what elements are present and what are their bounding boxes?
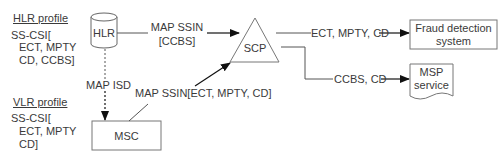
fraud-label-line-2: system [410, 35, 497, 48]
vlr-profile-line-2: ECT, MPTY [19, 125, 76, 138]
edge-hlr-msc-label: MAP ISD [86, 79, 131, 92]
hlr-profile-title: HLR profile [13, 12, 68, 25]
vlr-profile-title: VLR profile [13, 96, 67, 109]
scp-triangle-icon [230, 18, 279, 62]
edge-hlr-scp-label-2: [CCBS] [146, 35, 208, 48]
fraud-label-line-1: Fraud detection [410, 22, 497, 35]
scp-msp-line-a [281, 47, 333, 79]
msc-scp-arrow [195, 63, 230, 86]
msc-scp-line-a [129, 104, 148, 121]
hlr-profile-line-2: ECT, MPTY [19, 41, 76, 54]
edge-msc-scp-label: MAP SSIN[ECT, MPTY, CD] [135, 87, 272, 100]
vlr-profile-line-1: SS-CSI[ [11, 112, 51, 125]
edge-scp-fraud-label: ECT, MPTY, CD [311, 27, 389, 40]
vlr-profile-line-3: CD] [19, 138, 38, 151]
msp-label-line-2: service [410, 79, 453, 92]
msc-label: MSC [92, 130, 161, 143]
edge-hlr-scp-label-1: MAP SSIN [146, 21, 208, 34]
msp-label-line-1: MSP [410, 66, 453, 79]
scp-label: SCP [239, 42, 271, 55]
hlr-profile-line-3: CD, CCBS] [19, 54, 75, 67]
edge-scp-msp-label: CCBS, CD [334, 73, 387, 86]
hlr-label: HLR [91, 27, 117, 40]
